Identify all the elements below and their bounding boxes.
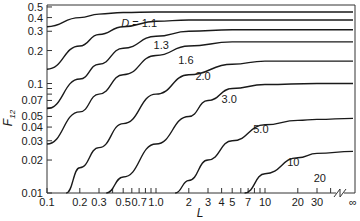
x-tick-label: 0.2 bbox=[72, 196, 87, 208]
curve-label: 1.3 bbox=[154, 39, 169, 51]
x-tick-label: 5 bbox=[229, 196, 235, 208]
x-tick-label: 0.1 bbox=[39, 196, 54, 208]
x-tick-label: 7 bbox=[245, 196, 251, 208]
y-tick-label: 0.03 bbox=[22, 135, 43, 147]
y-tick-label: 0.07 bbox=[22, 94, 43, 106]
x-tick-label: 1.0 bbox=[148, 196, 163, 208]
x-tick-label: 10 bbox=[259, 196, 271, 208]
x-tick-label: 30 bbox=[311, 196, 323, 208]
chart: 0.50.40.30.20.10.070.050.040.030.020.01 … bbox=[0, 0, 360, 221]
x-tick-label: 0.7 bbox=[131, 196, 146, 208]
plot-frame bbox=[47, 5, 355, 197]
curve-label: 10 bbox=[287, 156, 299, 168]
y-tick-label: 0.04 bbox=[22, 121, 43, 133]
x-tick-label: 4 bbox=[219, 196, 225, 208]
y-tick-label: 0.02 bbox=[22, 154, 43, 166]
x-axis-title: L bbox=[197, 206, 204, 220]
y-axis-title-sub: 12 bbox=[8, 109, 17, 118]
curve-label: 1.6 bbox=[178, 54, 193, 66]
curves bbox=[47, 12, 353, 193]
y-tick-label: 0.1 bbox=[28, 78, 43, 90]
y-tick-label: 0.4 bbox=[28, 12, 43, 24]
curve-label: 2.0 bbox=[195, 70, 210, 82]
x-tick-label: 3 bbox=[205, 196, 211, 208]
curve-label: D = 1.1 bbox=[121, 17, 157, 29]
curve-d1.3 bbox=[47, 20, 353, 69]
x-tick-label: 2 bbox=[186, 196, 192, 208]
x-axis: 0.10.20.30.50.71.023457102030∞ bbox=[39, 188, 357, 208]
curve-d2.0 bbox=[47, 42, 353, 144]
x-tick-label: 0.3 bbox=[91, 196, 106, 208]
curve-label: 5.0 bbox=[253, 123, 268, 135]
x-tick-label: 20 bbox=[292, 196, 304, 208]
x-tick-label: ∞ bbox=[349, 196, 357, 208]
y-axis-title: F12 bbox=[1, 109, 17, 126]
curve-label: 3.0 bbox=[222, 93, 237, 105]
x-tick-label: 0.5 bbox=[116, 196, 131, 208]
y-tick-label: 0.2 bbox=[28, 45, 43, 57]
y-tick-label: 0.3 bbox=[28, 25, 43, 37]
curve-label: 20 bbox=[314, 172, 326, 184]
